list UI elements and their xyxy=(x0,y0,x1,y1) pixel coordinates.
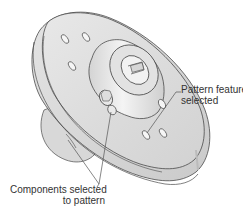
callout-pattern-feature: Pattern feature selected xyxy=(181,84,243,106)
callout-text: selected xyxy=(181,95,243,106)
callout-components-selected: Components selected to pattern xyxy=(10,184,105,206)
callout-text: Components selected xyxy=(10,184,105,195)
callout-text: to pattern xyxy=(10,195,105,206)
callout-text: Pattern feature xyxy=(181,84,243,95)
